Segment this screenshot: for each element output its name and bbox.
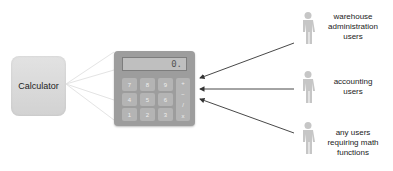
actor-label-any-users: any users requiring math functions (318, 128, 388, 158)
person-icon-warehouse (303, 12, 315, 44)
person-icon-accounting (303, 71, 315, 103)
person-icon-any-users (303, 122, 315, 154)
actor-label-warehouse: warehouse administration users (318, 12, 388, 42)
actor-label-accounting: accounting users (318, 77, 388, 97)
